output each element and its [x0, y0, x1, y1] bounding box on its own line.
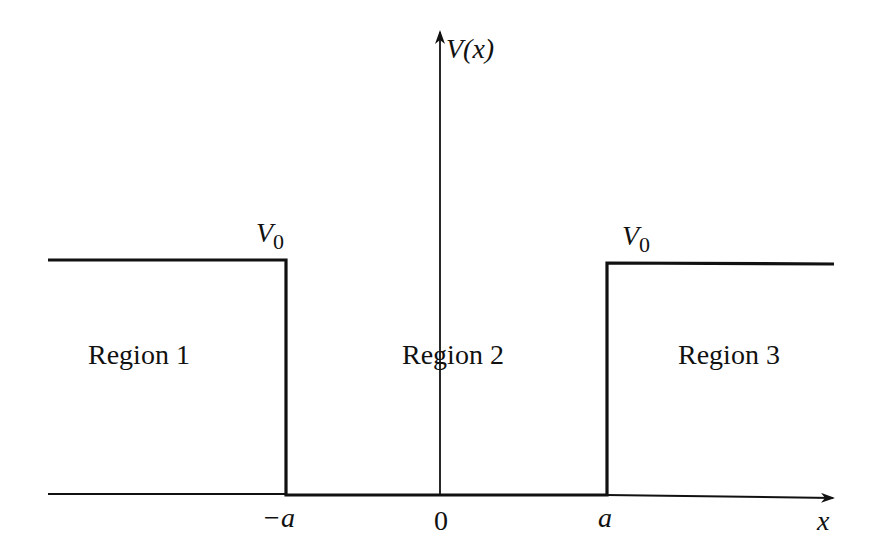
tick-label-neg-a: −a [262, 502, 295, 533]
y-axis-label: V(x) [446, 33, 494, 64]
x-axis-label: x [816, 505, 830, 536]
region-2-label: Region 2 [402, 339, 504, 370]
region-3-label: Region 3 [678, 339, 780, 370]
tick-label-a: a [598, 502, 612, 533]
barrier-label-left: V0 [256, 217, 284, 254]
potential-curve [48, 260, 834, 495]
potential-well-diagram: V(x) x V0 V0 −a 0 a Region 1 Region 2 Re… [0, 0, 882, 559]
region-1-label: Region 1 [88, 339, 190, 370]
tick-label-zero: 0 [434, 505, 448, 536]
barrier-label-right: V0 [622, 220, 650, 257]
x-axis-right [606, 495, 833, 498]
